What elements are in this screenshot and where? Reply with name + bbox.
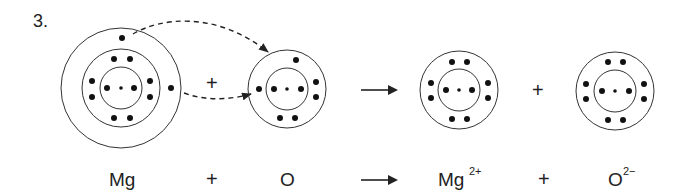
mg-atom (61, 28, 181, 148)
o-ion (576, 52, 654, 130)
reaction-arrow-top (361, 85, 398, 95)
plus-sign-equation-2: + (538, 168, 550, 190)
product-o-charge: 2− (623, 165, 636, 177)
product-mg-label: Mg (438, 169, 464, 190)
plus-sign-equation-1: + (206, 168, 218, 190)
question-number: 3. (33, 11, 48, 31)
plus-sign-top-1: + (206, 72, 218, 94)
reaction-arrow-equation (361, 175, 398, 185)
plus-sign-top-2: + (532, 79, 544, 101)
word-equation: Mg + O Mg 2+ + O 2− (109, 165, 636, 190)
transfer-arrow-top (133, 21, 268, 52)
reactant-o-label: O (280, 169, 295, 190)
product-o-label: O (608, 169, 623, 190)
product-mg-charge: 2+ (469, 165, 482, 177)
o-atom (248, 50, 326, 128)
ionic-bond-diagram: 3. + (0, 0, 686, 193)
reactant-mg-label: Mg (109, 169, 135, 190)
mg-ion (420, 51, 498, 129)
